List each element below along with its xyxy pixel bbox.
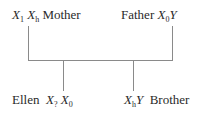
mother-name: Mother xyxy=(42,7,80,22)
daughter-allele-2-sub: 0 xyxy=(69,100,73,109)
mother-line xyxy=(28,26,29,61)
father-line xyxy=(172,26,173,61)
son-name: Brother xyxy=(150,92,190,107)
marriage-line xyxy=(28,60,173,61)
son-line xyxy=(133,60,134,91)
daughter-allele-1: X xyxy=(46,92,54,107)
daughter-name: Ellen xyxy=(12,92,39,107)
son-label: XhY Brother xyxy=(124,93,189,112)
mother-allele-2-sub: h xyxy=(35,15,39,24)
mother-allele-2: X xyxy=(27,7,35,22)
daughter-allele-2: X xyxy=(61,92,69,107)
mother-allele-1-sub: 1 xyxy=(20,15,24,24)
father-name: Father xyxy=(121,7,154,22)
mother-label: X1 Xh Mother xyxy=(12,8,81,27)
father-label: Father X0Y xyxy=(121,8,177,27)
daughter-label: Ellen X? X0 xyxy=(12,93,73,112)
father-allele-2: Y xyxy=(169,7,176,22)
son-allele-2: Y xyxy=(136,92,143,107)
mother-allele-1: X xyxy=(12,7,20,22)
daughter-allele-1-sub: ? xyxy=(54,100,58,109)
son-allele-1: X xyxy=(124,92,132,107)
daughter-line xyxy=(63,60,64,91)
